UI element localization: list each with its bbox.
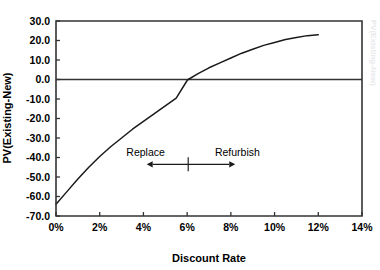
y-axis-tick-label: -20.0 bbox=[26, 112, 50, 124]
y-axis-tick-label: -60.0 bbox=[26, 190, 50, 202]
replace-region-label: Replace bbox=[126, 146, 165, 158]
y-axis-tick-label: 30.0 bbox=[30, 15, 51, 27]
x-axis-tick-label: 14% bbox=[351, 221, 373, 233]
x-axis-tick-label: 0% bbox=[48, 221, 64, 233]
plot-background bbox=[56, 21, 362, 216]
refurbish-region-label: Refurbish bbox=[215, 146, 260, 158]
y-axis-tick-label: 0.0 bbox=[35, 73, 50, 85]
chart-container: PV(Existing-New) 30.020.010.00.0-10.0-20… bbox=[0, 0, 380, 270]
x-axis-tick-label: 6% bbox=[180, 221, 196, 233]
y-axis-tick-label: -30.0 bbox=[26, 132, 50, 144]
x-axis-title: Discount Rate bbox=[172, 252, 246, 264]
x-axis-tick-label: 4% bbox=[136, 221, 152, 233]
y-axis-tick-label: 20.0 bbox=[30, 34, 51, 46]
x-axis-tick-labels: 0%2%4%6%8%10%12%14% bbox=[48, 221, 373, 233]
y-axis-tick-label: -50.0 bbox=[26, 171, 50, 183]
y-axis-tick-label: -10.0 bbox=[26, 93, 50, 105]
y-axis-tick-label: -70.0 bbox=[26, 210, 50, 222]
pv-discount-rate-line-chart: 30.020.010.00.0-10.0-20.0-30.0-40.0-50.0… bbox=[0, 0, 380, 270]
x-axis-tick-label: 10% bbox=[264, 221, 286, 233]
y-axis-tick-label: -40.0 bbox=[26, 151, 50, 163]
y-axis-title: PV(Existing-New) bbox=[1, 72, 13, 163]
x-axis-tick-label: 12% bbox=[308, 221, 330, 233]
x-axis-tick-label: 2% bbox=[92, 221, 108, 233]
y-axis-tick-labels: 30.020.010.00.0-10.0-20.0-30.0-40.0-50.0… bbox=[26, 15, 50, 222]
x-axis-tick-label: 8% bbox=[223, 221, 239, 233]
y-axis-tick-label: 10.0 bbox=[30, 54, 51, 66]
